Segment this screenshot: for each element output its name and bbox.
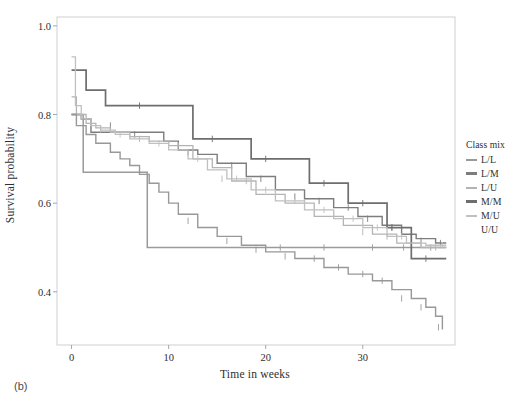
legend-item-l-u[interactable]: L/U: [466, 181, 524, 194]
survival-plot: [0, 0, 527, 409]
legend-title: Class mix: [466, 139, 524, 150]
legend-item-label: U/U: [481, 224, 498, 235]
legend-line-swatch: [466, 229, 477, 231]
y-axis-label: Survival probability: [4, 105, 16, 245]
legend-item-label: L/U: [481, 182, 497, 193]
legend-item-label: M/U: [481, 210, 500, 221]
legend-item-label: L/L: [481, 154, 496, 165]
legend-line-swatch: [466, 159, 477, 161]
x-tick-label: 0: [69, 352, 74, 363]
legend-items: L/LL/ML/UM/MM/UU/U: [466, 153, 524, 236]
figure-caption: (b): [14, 380, 27, 392]
x-axis-label: Time in weeks: [220, 368, 290, 380]
legend-line-swatch: [466, 215, 477, 217]
y-tick-label: 0.4: [29, 286, 51, 297]
legend-item-u-u[interactable]: U/U: [466, 223, 524, 236]
y-tick-label: 0.8: [29, 109, 51, 120]
legend-item-m-m[interactable]: M/M: [466, 195, 524, 208]
legend: Class mix L/LL/ML/UM/MM/UU/U: [466, 139, 524, 237]
x-tick-label: 30: [358, 352, 369, 363]
legend-line-swatch: [466, 200, 477, 203]
legend-item-l-l[interactable]: L/L: [466, 153, 524, 166]
axis-ticks: [53, 26, 363, 349]
x-tick-label: 20: [260, 352, 271, 363]
legend-line-swatch: [466, 172, 477, 175]
legend-item-l-m[interactable]: L/M: [466, 167, 524, 180]
survival-curve-m-u: [72, 57, 447, 245]
figure-panel: Survival probability Time in weeks 0.40.…: [0, 0, 527, 409]
legend-item-m-u[interactable]: M/U: [466, 209, 524, 222]
legend-line-swatch: [466, 187, 477, 189]
x-tick-label: 10: [163, 352, 174, 363]
survival-curves: [72, 57, 447, 331]
y-tick-label: 1.0: [29, 20, 51, 31]
legend-item-label: M/M: [481, 196, 501, 207]
survival-curve-m-m: [72, 70, 447, 258]
y-tick-label: 0.6: [29, 198, 51, 209]
survival-curve-l-m: [72, 115, 447, 244]
legend-item-label: L/M: [481, 168, 499, 179]
